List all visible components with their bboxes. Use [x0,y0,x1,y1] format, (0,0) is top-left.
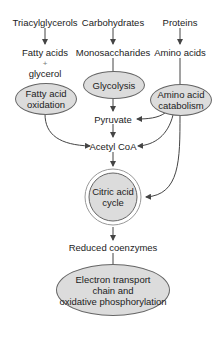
node-glycolysis-label: Glycolysis [93,80,136,91]
label-acetyl-coa: Acetyl CoA [90,141,137,152]
node-etc-line1: Electron transport [76,274,151,285]
node-amino-acid-catabolism-line2: catabolism [158,100,203,111]
node-electron-transport-chain: Electron transportchain andoxidative pho… [56,264,170,316]
label-fatty-acids: Fatty acids [22,47,68,58]
label-glycerol: glycerol [29,68,62,79]
label-amino-acids: Amino acids [154,47,206,58]
node-amino-acid-catabolism: Amino acidcatabolism [150,84,212,116]
node-etc-line3: oxidative phosphorylation [59,296,166,307]
node-citric-acid-cycle: Citric acidcycle [92,186,134,208]
node-amino-acid-catabolism-line1: Amino acid [158,89,205,100]
node-citric-acid-cycle-line1: Citric acid [92,186,134,197]
node-glycolysis: Glycolysis [83,71,145,99]
node-fatty-acid-oxidation: Fatty acidoxidation [15,83,77,115]
label-pyruvate: Pyruvate [94,114,132,125]
node-citric-acid-cycle-line2: cycle [102,197,124,208]
node-fatty-acid-oxidation-line1: Fatty acid [25,88,66,99]
label-proteins: Proteins [163,17,198,28]
node-etc-line2: chain and [92,285,133,296]
label-triacylglycerols: Triacylglycerols [12,17,77,28]
label-carbohydrates: Carbohydrates [82,17,144,28]
label-reduced-coenzymes: Reduced coenzymes [69,242,158,253]
label-monosaccharides: Monosaccharides [76,47,150,58]
node-fatty-acid-oxidation-line2: oxidation [27,99,65,110]
